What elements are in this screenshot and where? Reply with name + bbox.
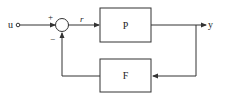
plus-sign: + <box>48 12 53 22</box>
feedback-return-arrow <box>62 33 100 76</box>
block-F-label: F <box>123 70 129 81</box>
error-signal-label: r <box>80 14 84 24</box>
input-terminal-icon <box>16 23 20 27</box>
summing-junction-icon <box>56 19 69 32</box>
minus-sign: − <box>50 34 55 44</box>
input-label: u <box>8 19 13 30</box>
block-P-label: P <box>123 20 129 31</box>
output-label: y <box>208 19 213 30</box>
feedback-branch-arrow <box>153 25 196 76</box>
block-diagram: u + − r P y F <box>0 0 241 98</box>
